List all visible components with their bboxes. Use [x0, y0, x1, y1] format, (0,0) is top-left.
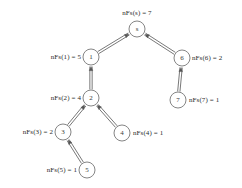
edge-6-to-s — [144, 33, 175, 54]
node-id-text: 1 — [89, 53, 93, 61]
node-annotation-7: nFs(7) = 1 — [189, 96, 219, 104]
node-id-text: s — [136, 25, 139, 33]
graph-node-2[interactable]: 2 — [83, 90, 99, 106]
edge-3-to-2 — [68, 105, 86, 127]
node-id-text: 5 — [85, 166, 89, 174]
node-id-text: 2 — [89, 94, 93, 102]
node-id-text: 4 — [120, 129, 124, 137]
graph-node-s[interactable]: s — [129, 21, 145, 37]
graph-node-1[interactable]: 1 — [83, 49, 99, 65]
graph-node-5[interactable]: 5 — [79, 162, 95, 178]
node-annotation-6: nFs(6) = 2 — [192, 54, 222, 62]
node-annotation-2: nFs(2) = 4 — [0, 94, 81, 102]
edge-4-to-2 — [96, 104, 117, 127]
node-id-text: 7 — [176, 96, 180, 104]
edge-5-to-3 — [67, 139, 83, 163]
node-annotation-3: nFs(3) = 2 — [0, 128, 53, 136]
graph-node-7[interactable]: 7 — [170, 92, 186, 108]
tree-diagram: s1627345 nFs(s) = 7nFs(1) = 5nFs(6) = 2n… — [0, 0, 242, 188]
graph-node-6[interactable]: 6 — [174, 50, 190, 66]
edge-7-to-6 — [178, 67, 183, 91]
node-annotation-s: nFs(s) = 7 — [0, 9, 242, 17]
node-annotation-1: nFs(1) = 5 — [0, 53, 81, 61]
graph-node-3[interactable]: 3 — [55, 124, 71, 140]
edge-1-to-s — [98, 33, 130, 54]
graph-node-4[interactable]: 4 — [114, 125, 130, 141]
node-annotation-5: nFs(5) = 1 — [0, 166, 77, 174]
node-id-text: 6 — [180, 54, 184, 62]
node-id-text: 3 — [61, 128, 65, 136]
node-annotation-4: nFs(4) = 1 — [133, 129, 163, 137]
edge-2-to-1 — [89, 67, 93, 90]
